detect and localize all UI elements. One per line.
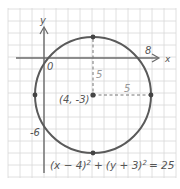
y-axis-label: y [39,15,47,26]
equation-exp-x: 2 [87,159,92,167]
equation-plus: + [94,159,103,171]
origin-label: 0 [47,61,53,72]
y-intercept-label: -6 [30,127,40,138]
x-axis-label: x [164,54,171,64]
y-axis [40,27,48,173]
equation-term-y: (y + 3) [106,159,143,171]
svg-text:(x − 4)2+(y + 3)2= 25: (x − 4)2+(y + 3)2= 25 [50,159,175,171]
center-label: (4, -3) [59,94,90,105]
bottom-point [91,151,96,156]
x-intercept-label: 8 [145,45,151,56]
equation-exp-y: 2 [142,159,147,167]
horizontal-radius-label: 5 [124,83,130,94]
left-point [33,93,38,98]
equation-term-x: (x − 4) [50,159,87,171]
center-point [90,92,95,97]
equation-rhs: = 25 [149,159,175,171]
right-point [149,93,154,98]
top-point [91,35,96,40]
coordinate-diagram: y x 0 8 -6 5 5 (4, -3) (x − 4)2+(y + 3)2… [0,0,180,189]
vertical-radius-label: 5 [96,69,102,80]
equation: (x − 4)2+(y + 3)2= 25 [50,159,175,171]
